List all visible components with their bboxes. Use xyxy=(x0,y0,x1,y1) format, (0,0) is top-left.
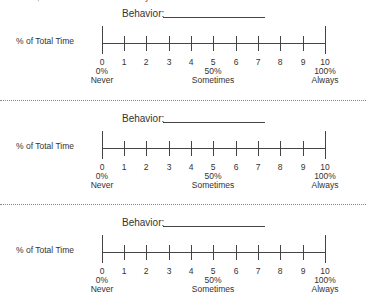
behavior-label: Behavior: xyxy=(122,217,164,228)
tick-0[interactable] xyxy=(102,131,103,159)
percent-total-time-label: % of Total Time xyxy=(16,245,74,255)
tick-9[interactable] xyxy=(303,245,304,260)
tick-8[interactable] xyxy=(280,141,281,156)
tick-7[interactable] xyxy=(258,36,259,51)
percent-total-time-label: % of Total Time xyxy=(16,36,74,46)
anchor-high-label: Always xyxy=(295,75,355,85)
anchor-mid-label: Sometimes xyxy=(183,180,243,190)
tick-8[interactable] xyxy=(280,245,281,260)
behavior-label: Behavior: xyxy=(122,113,164,124)
tick-10[interactable] xyxy=(325,131,326,159)
tick-5[interactable] xyxy=(213,141,214,156)
tick-3[interactable] xyxy=(169,36,170,51)
tick-3[interactable] xyxy=(169,245,170,260)
tick-8[interactable] xyxy=(280,36,281,51)
tick-2[interactable] xyxy=(146,141,147,156)
rating-scale-2: Behavior: % of Total Time 0 1 2 3 4 5 6 … xyxy=(0,105,373,205)
tick-1[interactable] xyxy=(124,141,125,156)
tick-4[interactable] xyxy=(191,36,192,51)
anchor-mid-label: Sometimes xyxy=(183,75,243,85)
section-divider xyxy=(0,100,366,101)
anchor-mid-label: Sometimes xyxy=(183,284,243,294)
tick-5[interactable] xyxy=(213,36,214,51)
tick-0[interactable] xyxy=(102,26,103,54)
tick-2[interactable] xyxy=(146,245,147,260)
tick-1[interactable] xyxy=(124,36,125,51)
behavior-input-line[interactable] xyxy=(163,17,265,18)
rating-scale-3: Behavior: % of Total Time 0 1 2 3 4 5 6 … xyxy=(0,209,373,305)
anchor-low-label: Never xyxy=(72,180,132,190)
anchor-high-label: Always xyxy=(295,284,355,294)
tick-2[interactable] xyxy=(146,36,147,51)
tick-7[interactable] xyxy=(258,245,259,260)
percent-total-time-label: % of Total Time xyxy=(16,141,74,151)
anchor-low-label: Never xyxy=(72,75,132,85)
tick-6[interactable] xyxy=(236,141,237,156)
tick-5[interactable] xyxy=(213,245,214,260)
tick-9[interactable] xyxy=(303,36,304,51)
tick-10[interactable] xyxy=(325,26,326,54)
tick-0[interactable] xyxy=(102,235,103,263)
anchor-high-label: Always xyxy=(295,180,355,190)
tick-7[interactable] xyxy=(258,141,259,156)
section-divider xyxy=(0,204,366,205)
tick-6[interactable] xyxy=(236,36,237,51)
behavior-input-line[interactable] xyxy=(163,226,265,227)
tick-9[interactable] xyxy=(303,141,304,156)
anchor-low-label: Never xyxy=(72,284,132,294)
rating-scale-1: Behavior: % of Total Time 0 1 2 3 4 5 6 … xyxy=(0,0,373,100)
tick-4[interactable] xyxy=(191,141,192,156)
tick-3[interactable] xyxy=(169,141,170,156)
tick-4[interactable] xyxy=(191,245,192,260)
tick-10[interactable] xyxy=(325,235,326,263)
behavior-label: Behavior: xyxy=(122,8,164,19)
tick-6[interactable] xyxy=(236,245,237,260)
behavior-input-line[interactable] xyxy=(163,122,265,123)
tick-1[interactable] xyxy=(124,245,125,260)
